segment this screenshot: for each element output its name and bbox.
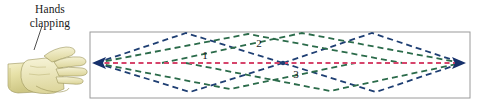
caption-leader-line — [34, 26, 42, 50]
path-label-2: 2 — [256, 37, 262, 49]
sound-path-diagram: 1 2 3 — [0, 0, 478, 108]
center-focus-point — [281, 61, 285, 65]
figure-container: Hands clapping — [0, 0, 478, 108]
path-label-1: 1 — [202, 49, 208, 61]
room-box — [90, 32, 470, 98]
path-label-3: 3 — [293, 68, 299, 80]
